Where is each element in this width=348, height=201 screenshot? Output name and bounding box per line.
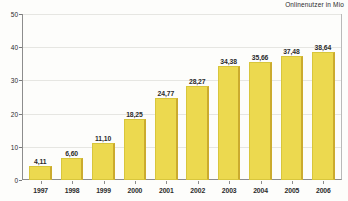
bar: 24,77	[155, 98, 178, 180]
y-tick-label: 10	[2, 143, 18, 150]
x-tick: 2006	[308, 181, 339, 201]
x-tick-label: 2000	[119, 187, 150, 194]
bar-value-label: 35,66	[252, 54, 269, 61]
bar-slot: 38,64	[308, 14, 339, 180]
x-tick-mark	[229, 181, 230, 184]
x-tick-label: 2004	[245, 187, 276, 194]
x-tick-label: 1997	[25, 187, 56, 194]
x-tick: 1997	[25, 181, 56, 201]
x-tick-mark	[323, 181, 324, 184]
x-tick-mark	[72, 181, 73, 184]
y-tick-label: 20	[2, 110, 18, 117]
bar: 6,60	[61, 158, 84, 180]
x-tick-label: 2001	[151, 187, 182, 194]
bar-value-label: 24,77	[158, 90, 175, 97]
x-tick-mark	[261, 181, 262, 184]
bar: 38,64	[312, 52, 335, 180]
bar-slot: 24,77	[151, 14, 182, 180]
x-tick-label: 2005	[276, 187, 307, 194]
y-tick-label: 40	[2, 44, 18, 51]
bar-value-label: 4,11	[34, 158, 46, 165]
chart-unit-caption: Onlinenutzer in Mio	[285, 1, 344, 8]
bar-slot: 6,60	[56, 14, 87, 180]
bar-slot: 18,25	[119, 14, 150, 180]
x-tick-mark	[198, 181, 199, 184]
bar: 11,10	[92, 143, 115, 180]
bar-slot: 28,27	[182, 14, 213, 180]
bar-chart: Onlinenutzer in Mio 01020304050 4,116,60…	[0, 0, 348, 201]
x-tick-label: 2006	[308, 187, 339, 194]
x-tick: 1999	[88, 181, 119, 201]
x-tick-label: 1998	[56, 187, 87, 194]
x-tick: 2003	[213, 181, 244, 201]
y-tick-label: 30	[2, 77, 18, 84]
bar-slot: 37,48	[276, 14, 307, 180]
bar-slot: 4,11	[25, 14, 56, 180]
bar: 35,66	[249, 62, 272, 180]
bar-value-label: 28,27	[189, 78, 206, 85]
x-tick: 2002	[182, 181, 213, 201]
bar: 37,48	[281, 56, 304, 180]
x-tick-mark	[292, 181, 293, 184]
x-tick: 2001	[151, 181, 182, 201]
x-tick: 1998	[56, 181, 87, 201]
x-tick: 2000	[119, 181, 150, 201]
y-tick-mark	[19, 180, 22, 181]
bar-value-label: 11,10	[95, 135, 111, 142]
bar-slot: 35,66	[245, 14, 276, 180]
x-tick-mark	[104, 181, 105, 184]
bar-value-label: 38,64	[315, 44, 332, 51]
y-tick-label: 0	[2, 177, 18, 184]
bar: 28,27	[186, 86, 209, 180]
bar-value-label: 18,25	[126, 111, 143, 118]
x-tick: 2004	[245, 181, 276, 201]
x-tick-label: 2003	[213, 187, 244, 194]
x-tick-label: 2002	[182, 187, 213, 194]
bar-slot: 11,10	[88, 14, 119, 180]
bar: 18,25	[124, 119, 147, 180]
x-axis: 1997199819992000200120022003200420052006	[23, 181, 341, 201]
bar-value-label: 34,38	[220, 58, 237, 65]
x-tick: 2005	[276, 181, 307, 201]
bar-value-label: 6,60	[65, 150, 78, 157]
y-tick-label: 50	[2, 11, 18, 18]
bar: 34,38	[218, 66, 241, 180]
x-tick-label: 1999	[88, 187, 119, 194]
bar-value-label: 37,48	[283, 48, 300, 55]
y-axis: 01020304050	[0, 14, 22, 180]
bar: 4,11	[29, 166, 52, 180]
x-tick-mark	[135, 181, 136, 184]
x-tick-mark	[166, 181, 167, 184]
bar-slot: 34,38	[213, 14, 244, 180]
bar-series: 4,116,6011,1018,2524,7728,2734,3835,6637…	[23, 14, 341, 180]
x-tick-mark	[41, 181, 42, 184]
